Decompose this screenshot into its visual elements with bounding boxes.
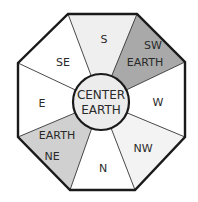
center-label-line2: EARTH: [81, 103, 121, 117]
label-n: N: [99, 162, 107, 175]
bagua-diagram: CENTER EARTH S SW EARTH W NW N EARTH NE …: [0, 0, 198, 202]
center-circle: [73, 74, 129, 130]
label-nw: NW: [133, 142, 152, 155]
label-ne-line1: EARTH: [39, 129, 75, 142]
center-label-line1: CENTER: [77, 88, 125, 102]
label-se: SE: [56, 56, 70, 69]
label-sw-line1: SW: [144, 39, 162, 52]
octagon-svg: CENTER EARTH S SW EARTH W NW N EARTH NE …: [0, 0, 198, 202]
label-s: S: [101, 33, 108, 46]
label-w: W: [153, 96, 164, 109]
label-sw-line2: EARTH: [127, 56, 163, 69]
label-ne-line2: NE: [44, 150, 59, 163]
label-e: E: [39, 97, 46, 110]
